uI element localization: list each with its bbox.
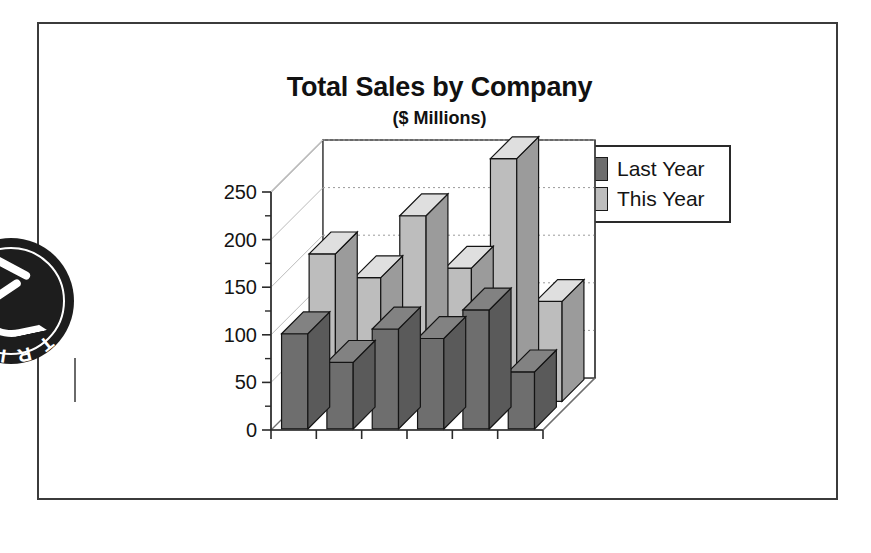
legend-item-last-year: Last Year bbox=[584, 154, 720, 184]
legend-label-last-year: Last Year bbox=[617, 157, 705, 181]
y-axis-tick-label: 200 bbox=[224, 229, 257, 251]
legend-item-this-year: This Year bbox=[584, 184, 720, 214]
chart-frame: Total Sales by Company ($ Millions) Last… bbox=[37, 22, 838, 500]
chart-title: Total Sales by Company bbox=[39, 72, 840, 103]
badge-stem bbox=[74, 358, 76, 402]
badge-arc-text: S T R I C K bbox=[0, 238, 74, 364]
plot-canvas: 050100150200250 bbox=[179, 124, 599, 474]
bar-chart-3d: 050100150200250 bbox=[179, 124, 599, 474]
badge-arc-text-bottom: T R I C K bbox=[0, 318, 58, 364]
page-edge-artifact bbox=[0, 60, 22, 230]
y-axis-tick-label: 250 bbox=[224, 181, 257, 203]
y-axis-tick-label: 150 bbox=[224, 276, 257, 298]
bar-last-year-1 bbox=[282, 312, 330, 429]
y-axis-tick-label: 100 bbox=[224, 324, 257, 346]
bar-last-year-4 bbox=[418, 317, 466, 429]
decorative-badge-logo: S T R I C K bbox=[0, 238, 74, 364]
y-axis-tick-label: 0 bbox=[246, 419, 257, 441]
bar-last-year-3 bbox=[372, 307, 420, 429]
legend-label-this-year: This Year bbox=[617, 187, 705, 211]
bar-last-year-5 bbox=[463, 288, 511, 429]
y-axis-tick-label: 50 bbox=[235, 371, 257, 393]
